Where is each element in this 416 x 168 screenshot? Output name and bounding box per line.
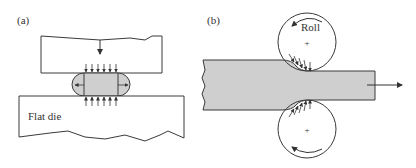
panel-b-label: (b): [207, 14, 220, 27]
flat-die-label: Flat die: [28, 110, 61, 122]
lower-roll-rotation-arrow: [292, 147, 322, 153]
panel-a-label: (a): [17, 14, 30, 27]
panel-a: (a): [17, 14, 184, 141]
lower-roll-center-mark: +: [304, 125, 309, 135]
upper-roll-center-mark: +: [304, 38, 309, 48]
forging-rolling-diagram: (a): [0, 0, 416, 168]
panel-b: (b) + Roll +: [202, 13, 402, 158]
workpiece-a: [72, 73, 130, 96]
upper-die: [41, 36, 162, 73]
lower-roll: +: [278, 100, 336, 158]
roll-label: Roll: [301, 21, 320, 33]
rolled-strip: [202, 60, 375, 110]
upper-roll: + Roll: [278, 13, 336, 71]
